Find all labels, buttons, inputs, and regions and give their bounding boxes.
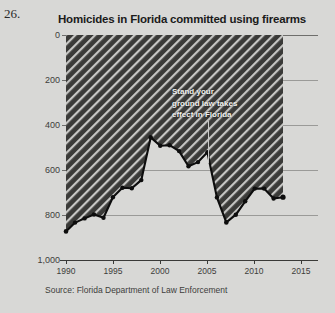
x-tick-label-1995: 1995 [104,266,123,276]
y-tick-label-400: 400 [20,120,60,130]
x-tick-label-2000: 2000 [151,266,170,276]
x-tick-label-2010: 2010 [245,266,264,276]
y-tick-mark-400 [62,125,66,126]
x-tick-mark-2000 [160,260,161,264]
x-tick-label-2015: 2015 [292,266,311,276]
x-tick-mark-2005 [207,260,208,264]
x-tick-mark-2010 [254,260,255,264]
y-tick-label-800: 800 [20,210,60,220]
y-tick-label-1000: 1,000 [14,255,60,265]
y-tick-mark-0 [62,35,66,36]
y-tick-label-600: 600 [20,165,60,175]
x-tick-label-2005: 2005 [198,266,217,276]
y-tick-mark-800 [62,215,66,216]
source-note: Source: Florida Department of Law Enforc… [45,285,227,295]
x-tick-label-1990: 1990 [57,266,76,276]
figure-root: 26. Homicides in Florida committed using… [0,0,335,313]
y-tick-label-200: 200 [20,75,60,85]
y-tick-mark-200 [62,80,66,81]
y-tick-mark-600 [62,170,66,171]
x-tick-mark-2015 [301,260,302,264]
x-tick-mark-1990 [66,260,67,264]
y-tick-label-0: 0 [20,30,60,40]
x-axis-line [66,260,318,261]
x-tick-mark-1995 [113,260,114,264]
